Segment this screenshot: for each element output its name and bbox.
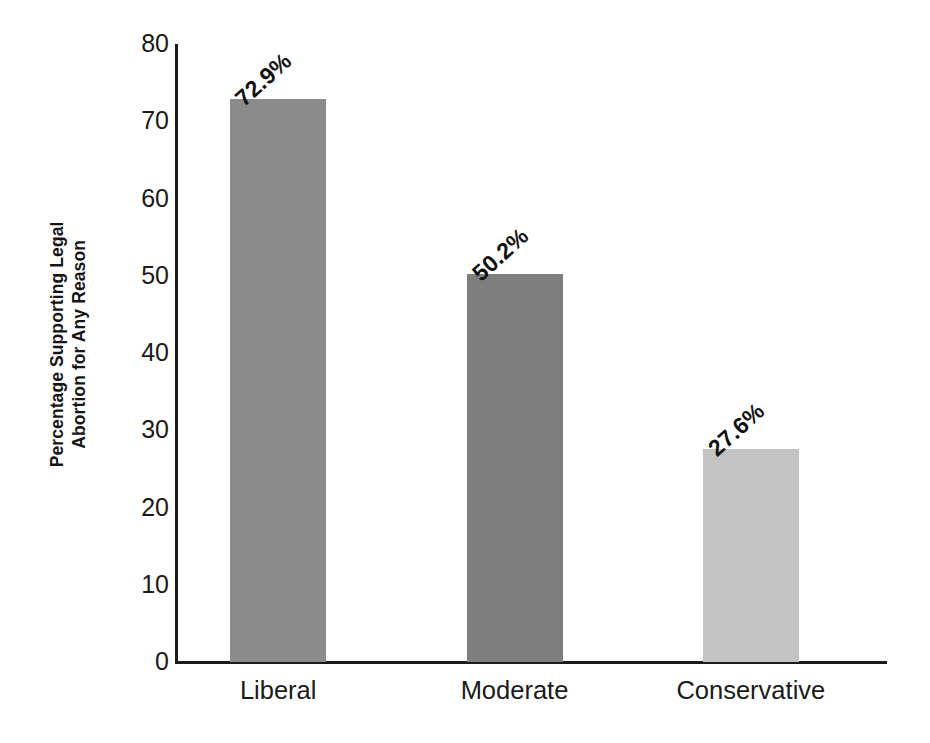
x-axis-category-label: Liberal bbox=[168, 676, 388, 704]
y-axis-tick-label: 30 bbox=[117, 417, 169, 442]
y-axis-tick-label: 80 bbox=[117, 31, 169, 56]
y-axis-tick-labels: 01020304050607080 bbox=[107, 0, 169, 743]
y-axis-tick-label: 60 bbox=[117, 186, 169, 211]
x-axis-category-label: Moderate bbox=[405, 676, 625, 704]
y-axis-title: Percentage Supporting Legal Abortion for… bbox=[46, 134, 91, 554]
plot-area bbox=[178, 44, 887, 662]
y-axis-tick-label: 70 bbox=[117, 108, 169, 133]
y-axis-title-line-1: Percentage Supporting Legal bbox=[46, 134, 68, 554]
bar bbox=[703, 449, 799, 662]
y-axis-tick-label: 50 bbox=[117, 263, 169, 288]
y-axis-tick-label: 0 bbox=[117, 649, 169, 674]
x-axis-category-label: Conservative bbox=[641, 676, 861, 704]
y-axis-title-line-2: Abortion for Any Reason bbox=[68, 134, 90, 554]
y-axis-tick-label: 40 bbox=[117, 340, 169, 365]
bar-chart: Percentage Supporting Legal Abortion for… bbox=[0, 0, 930, 743]
bar bbox=[467, 274, 563, 662]
y-axis-tick-label: 10 bbox=[117, 572, 169, 597]
bar bbox=[230, 99, 326, 662]
y-axis-tick-label: 20 bbox=[117, 495, 169, 520]
